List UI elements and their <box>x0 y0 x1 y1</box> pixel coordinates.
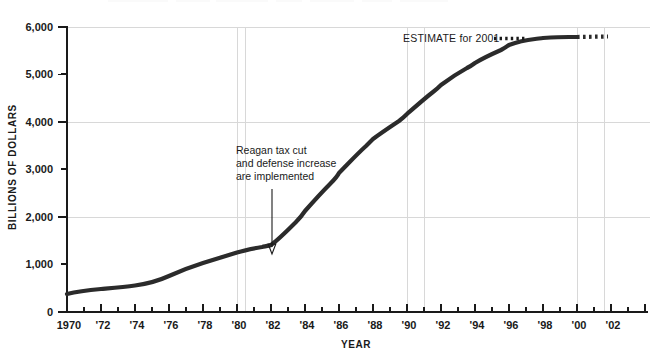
x-tick-label-1994: '94 <box>470 319 486 331</box>
x-tick-label-1974: '74 <box>130 319 146 331</box>
y-tick-label-4000: 4,000 <box>25 116 53 128</box>
x-tick-label-1976: '76 <box>164 319 179 331</box>
x-tick-label-1972: '72 <box>96 319 111 331</box>
y-tick-label-3000: 3,000 <box>25 163 53 175</box>
reagan-annotation-line-1: Reagan tax cut <box>236 144 307 156</box>
x-tick-label-1992: '92 <box>436 319 451 331</box>
x-tick-label-1990: '90 <box>402 319 417 331</box>
x-tick-label-1978: '78 <box>198 319 213 331</box>
x-axis-tick-labels: 1970 '72 '74 '76 '78 '80 '82 '84 '86 '88… <box>57 319 621 331</box>
y-axis-title: BILLIONS OF DOLLARS <box>7 104 18 230</box>
x-tick-label-1986: '86 <box>334 319 349 331</box>
gridlines <box>67 27 650 312</box>
x-tick-label-2002: '02 <box>606 319 621 331</box>
x-tick-label-2000: '00 <box>572 319 587 331</box>
x-tick-label-1982: '82 <box>266 319 281 331</box>
x-tick-label-1998: '98 <box>538 319 553 331</box>
axis-lines <box>66 26 648 313</box>
y-tick-label-1000: 1,000 <box>25 258 53 270</box>
y-tick-label-2000: 2,000 <box>25 211 53 223</box>
reagan-annotation-line-2: and defense increase <box>236 157 337 169</box>
y-axis-tick-labels: 6,000 5,000 4,000 3,000 2,000 1,000 0 <box>25 21 53 318</box>
x-tick-label-1984: '84 <box>300 319 316 331</box>
x-tick-label-1970: 1970 <box>57 319 81 331</box>
scan-top-artifact <box>108 0 448 2</box>
reagan-annotation: Reagan tax cut and defense increase are … <box>236 144 337 254</box>
x-tick-label-1980: '80 <box>232 319 247 331</box>
debt-line-chart: 6,000 5,000 4,000 3,000 2,000 1,000 0 BI… <box>0 0 655 354</box>
y-tick-label-6000: 6,000 <box>25 21 53 33</box>
y-tick-label-0: 0 <box>47 306 53 318</box>
x-axis-ticks <box>67 304 645 312</box>
debt-series-estimate-line <box>577 37 608 38</box>
reagan-annotation-line-3: are implemented <box>236 170 314 182</box>
estimate-legend: ESTIMATE for 2001 <box>403 32 525 44</box>
x-tick-label-1988: '88 <box>368 319 383 331</box>
chart-page: 6,000 5,000 4,000 3,000 2,000 1,000 0 BI… <box>0 0 655 354</box>
y-tick-label-5000: 5,000 <box>25 68 53 80</box>
x-tick-label-1996: '96 <box>504 319 519 331</box>
estimate-legend-label: ESTIMATE for 2001 <box>403 32 500 44</box>
x-axis-title: YEAR <box>341 339 371 350</box>
y-axis-ticks <box>58 27 67 312</box>
